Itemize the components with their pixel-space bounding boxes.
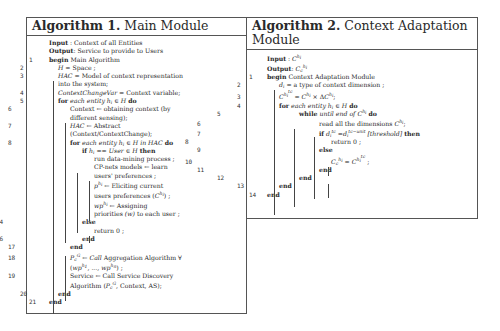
line-number: 8 (8, 139, 18, 147)
line-11: 11end (267, 166, 477, 174)
scope-line (65, 123, 66, 243)
line-number: 21 (29, 298, 39, 306)
line-number: 19 (8, 272, 18, 280)
line-number: 5 (217, 110, 227, 118)
title-rest: Main Module (120, 18, 208, 33)
line-number: 16 (0, 235, 6, 243)
line-8: 8for each entity hi ∈ H in HAC do (49, 139, 246, 147)
algorithm-2-title: Algorithm 2. Context Adaptation Module (247, 18, 477, 50)
line-11: 11CP-nets models ← learn (49, 163, 246, 171)
line-number: 14 (249, 191, 259, 199)
line-12: 12end (267, 174, 477, 182)
scope-line (294, 129, 295, 207)
scope-line (53, 81, 54, 314)
algorithm-2-box: Algorithm 2. Context Adaptation Module I… (246, 17, 478, 219)
scope-line (328, 184, 329, 198)
line-1: 1begin Context Adaptation Module (267, 73, 477, 81)
algorithm-1-body: Input : Context of all Entities Output: … (27, 36, 246, 306)
line-number: 18 (8, 252, 18, 263)
output-label: Output (49, 47, 73, 54)
line-number: 3 (20, 72, 30, 80)
line-number: 9 (0, 147, 6, 155)
line-4: 4ContextChangeVar = Context variable; (49, 89, 246, 97)
scope-line (89, 181, 90, 221)
line-10: 10run data-mining process ; (49, 155, 246, 163)
line-9: 9else (267, 146, 477, 154)
scope-line (65, 256, 66, 301)
line-17: 17end (49, 243, 246, 251)
line-number: 1 (249, 73, 259, 81)
line-19: 19Service ← Call Service Discovery (49, 272, 246, 280)
line-20: 20end (49, 290, 246, 298)
line-number: 11 (197, 166, 207, 174)
line-number: 7 (197, 128, 207, 139)
scope-line (89, 236, 90, 243)
line-3: 3Chitc = Chi × ΔChi; (267, 90, 477, 102)
line-8: 8return 0 ; (267, 138, 477, 146)
line-number: 13 (237, 182, 247, 190)
line-13: 13wphi ← Assigning (49, 200, 246, 210)
line-7: 7HAC ← Abstract (49, 122, 246, 130)
algorithm-2-body: Input : Chi Output: Cchi 1begin Context … (247, 50, 477, 199)
line-number: 7 (8, 122, 18, 130)
line-2: 2H = Space ; (49, 64, 246, 72)
line-number: 10 (185, 155, 195, 168)
line-number: 12 (217, 174, 227, 182)
line-number: 9 (197, 146, 207, 154)
output-label: Output (267, 65, 291, 72)
line-number: 17 (8, 243, 18, 251)
line-7: 7if ditc =ditc−unit [threshold] then (267, 128, 477, 138)
input-label: Input (49, 39, 68, 46)
title-bold: Algorithm 2. (252, 18, 340, 33)
line-number: 4 (237, 102, 247, 110)
line-number: 8 (185, 138, 195, 146)
line-21: 21end (49, 298, 246, 306)
line-13: 13end (267, 182, 477, 190)
line-number: 5 (20, 97, 30, 105)
line-3: 3HAC = Model of context representation (49, 72, 246, 80)
line-6: 6read all the dimensions Chi; (267, 118, 477, 128)
algorithm-1-box: Algorithm 1. Main Module Input : Context… (26, 17, 247, 314)
input-label: Input (267, 55, 286, 62)
title-bold: Algorithm 1. (32, 18, 120, 33)
line-14: 14end (267, 191, 477, 199)
scope-line (328, 167, 329, 176)
line-16: 16end (49, 235, 246, 243)
line-number: 1 (29, 56, 39, 64)
line-9: 9if hi == User ∈ H then (49, 147, 246, 155)
line-number: 20 (20, 290, 30, 298)
algorithm-1-title: Algorithm 1. Main Module (27, 18, 246, 36)
input-value: : Context of all Entities (68, 39, 142, 46)
line-number: 2 (237, 81, 247, 89)
line-4: 4for each entity hi ∈ H do (267, 102, 477, 110)
scope-line (274, 90, 275, 215)
scope-line (77, 173, 78, 233)
line-2: 2di = a type of context dimension ; (267, 81, 477, 89)
line-5: 5for each entity hi ∈ H do (49, 97, 246, 105)
line-1: 1begin Main Algorithm (49, 56, 246, 64)
line-number: 2 (20, 64, 30, 72)
scope-line (314, 137, 315, 199)
line-15: 15return 0 ; (49, 227, 246, 235)
output-value: : Service to provide to Users (73, 47, 163, 54)
line-18: 18PcG ← Call Aggregation Algorithm ∀ (49, 252, 246, 262)
line-10: 10Cchi = Chitc ; (267, 155, 477, 166)
line-14: 14else (49, 218, 246, 226)
line-number: 4 (20, 89, 30, 97)
line-number: 14 (0, 218, 6, 226)
line-5: 5while until end of Chi do (267, 110, 477, 118)
line-number: 6 (8, 105, 18, 113)
